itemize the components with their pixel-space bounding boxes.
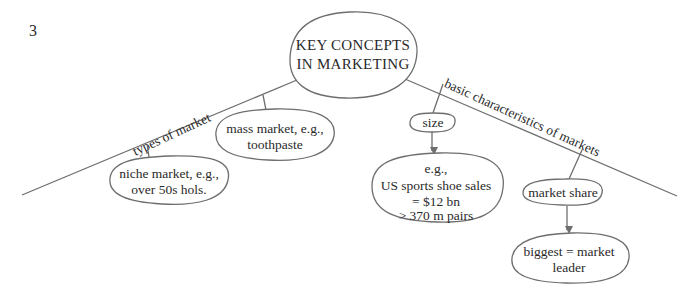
center-node: KEY CONCEPTS IN MARKETING <box>290 12 417 98</box>
connector-size <box>433 84 443 113</box>
connector-mass-market <box>263 95 266 110</box>
mass-market-line1: mass market, e.g., <box>226 121 323 136</box>
branch-label-types-of-market: types of market <box>130 110 213 159</box>
size-example-line2: US sports shoe sales <box>381 178 492 193</box>
size-example-line4: > 370 m pairs <box>399 208 474 223</box>
branch-label-basic-characteristics: basic characteristics of markets <box>442 76 602 160</box>
market-share-node: market share <box>523 179 602 205</box>
size-label: size <box>423 115 444 130</box>
center-title-line2: IN MARKETING <box>296 56 409 72</box>
connector-market-share <box>569 150 582 179</box>
mass-market-node: mass market, e.g., toothpaste <box>216 109 334 160</box>
niche-market-node: niche market, e.g., over 50s hols. <box>110 156 229 204</box>
niche-market-line1: niche market, e.g., <box>119 166 219 181</box>
market-leader-line2: leader <box>553 260 586 275</box>
size-example-line1: e.g., <box>425 161 448 176</box>
center-title-line1: KEY CONCEPTS <box>296 37 410 53</box>
market-share-label: market share <box>528 185 597 200</box>
size-example-line3: = $12 bn <box>412 194 460 209</box>
niche-market-line2: over 50s hols. <box>131 182 206 197</box>
size-example-node: e.g., US sports shoe sales = $12 bn > 37… <box>372 153 503 223</box>
mind-map-diagram: KEY CONCEPTS IN MARKETING types of marke… <box>0 0 700 297</box>
mass-market-line2: toothpaste <box>247 137 303 152</box>
market-leader-node: biggest = market leader <box>512 233 629 283</box>
market-leader-line1: biggest = market <box>524 244 615 259</box>
size-node: size <box>410 113 455 132</box>
